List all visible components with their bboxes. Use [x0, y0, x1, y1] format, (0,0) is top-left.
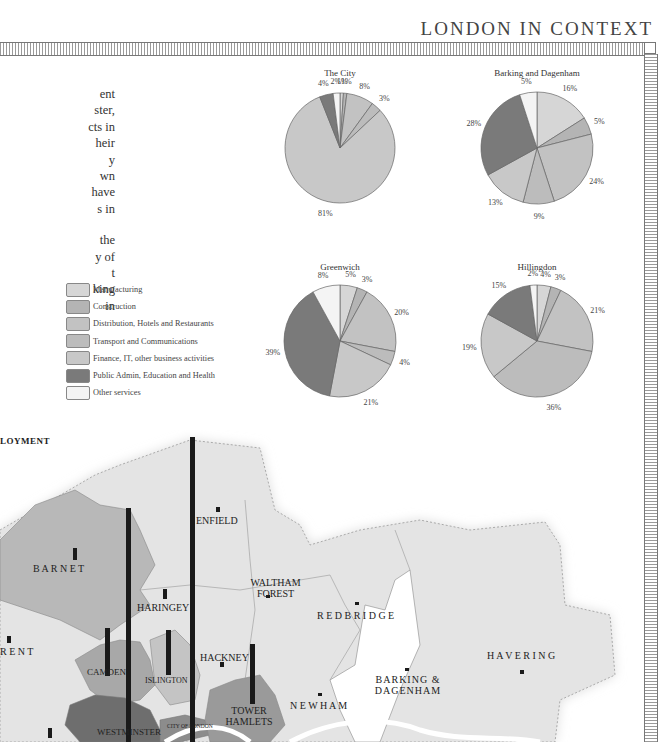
- pie-slice-label: 81%: [318, 209, 333, 218]
- pie-slice-label: 39%: [265, 347, 280, 356]
- pie-title: Barking and Dagenham: [494, 68, 579, 78]
- side-decorative-rule: [644, 54, 658, 742]
- bar-westminster: [126, 508, 131, 742]
- borough-label-barking-dagenham: BARKING & DAGENHAM: [372, 674, 444, 696]
- bar-tower-hamlets: [250, 644, 255, 704]
- pie-slice-label: 4%: [399, 358, 410, 367]
- legend-item: Finance, IT, other business activities: [66, 350, 215, 367]
- borough-label-newham: N E W H A M: [290, 700, 347, 711]
- borough-label-camden: CAMDEN: [87, 667, 126, 678]
- borough-label-waltham-forest: WALTHAM FOREST: [248, 577, 303, 599]
- pie-title: The City: [324, 68, 356, 78]
- pie-slice-label: 3%: [362, 274, 373, 283]
- borough-label-city-of-london: CITY OF LONDON: [167, 721, 213, 732]
- top-decorative-rule: [0, 42, 656, 56]
- legend-label: Transport and Communications: [93, 337, 198, 346]
- borough-label-hackney: HACKNEY: [200, 652, 249, 663]
- legend-item: Distribution, Hotels and Restaurants: [66, 315, 215, 332]
- legend-swatch: [66, 317, 90, 331]
- borough-label-brent: R E N T: [0, 646, 33, 657]
- pie-slice-label: 5%: [594, 116, 605, 125]
- legend-swatch: [66, 351, 90, 365]
- borough-label-tower-hamlets: TOWER HAMLETS: [224, 705, 274, 727]
- legend-label: Other services: [93, 388, 141, 397]
- section-title: LONDON IN CONTEXT: [421, 18, 653, 40]
- legend-label: Manufacturing: [93, 285, 142, 294]
- pie-slice-label: 36%: [547, 402, 562, 411]
- map-svg: [0, 430, 644, 742]
- pie-title: Hillingdon: [517, 262, 556, 272]
- legend-swatch: [66, 300, 90, 314]
- legend-item: Transport and Communications: [66, 333, 215, 350]
- pie-chart: [283, 91, 397, 205]
- legend-swatch: [66, 386, 90, 400]
- paragraph-1: entster,cts inheirywnhaves in: [0, 86, 115, 217]
- pie-chart: [282, 283, 398, 399]
- pie-title: Greenwich: [320, 262, 359, 272]
- borough-label-islington: ISLINGTON: [145, 675, 188, 686]
- legend-item: Public Admin, Education and Health: [66, 367, 215, 384]
- borough-label-enfield: ENFIELD: [196, 515, 238, 526]
- bar-city-of-london: [190, 437, 195, 742]
- borough-label-havering: H A V E R I N G: [487, 650, 555, 661]
- pie-chart: [479, 283, 595, 399]
- legend-swatch: [66, 369, 90, 383]
- pie-chart: [479, 90, 595, 206]
- pie-slice-label: 19%: [462, 343, 477, 352]
- borough-label-haringey: HARINGEY: [137, 602, 189, 613]
- rule-corner: [644, 42, 656, 54]
- borough-label-westminster: WESTMINSTER: [97, 727, 161, 738]
- pie-slice-label: 3%: [555, 273, 566, 282]
- legend-swatch: [66, 334, 90, 348]
- pie-slice-label: 9%: [534, 211, 545, 220]
- legend-item: Manufacturing: [66, 281, 215, 298]
- legend-label: Public Admin, Education and Health: [93, 371, 215, 380]
- legend-item: Other services: [66, 384, 215, 401]
- borough-label-redbridge: R E D B R I D G E: [317, 610, 394, 621]
- chart-legend: ManufacturingConstructionDistribution, H…: [66, 281, 215, 401]
- legend-label: Finance, IT, other business activities: [93, 354, 214, 363]
- legend-label: Construction: [93, 302, 136, 311]
- bar-islington: [166, 630, 171, 675]
- legend-swatch: [66, 283, 90, 297]
- pie-slice-label: 8%: [359, 81, 370, 90]
- legend-item: Construction: [66, 298, 215, 315]
- pie-slice-label: 4%: [318, 79, 329, 88]
- legend-label: Distribution, Hotels and Restaurants: [93, 319, 214, 328]
- borough-label-barnet: B A R N E T: [33, 563, 84, 574]
- pie-slice-label: 1%: [341, 77, 352, 86]
- borough-map: ENFIELD B A R N E T WALTHAM FOREST HARIN…: [0, 430, 644, 742]
